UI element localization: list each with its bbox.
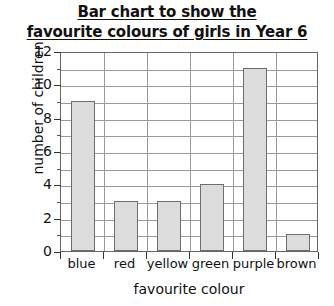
x-category-label-purple: purple (232, 256, 275, 271)
y-tick-major (54, 52, 61, 53)
bar-red (114, 201, 138, 251)
grid-line-horizontal (61, 86, 317, 87)
grid-line-vertical (104, 53, 105, 251)
y-tick-minor (57, 235, 61, 236)
grid-line-horizontal (61, 170, 317, 171)
y-tick-label: 2 (12, 213, 52, 223)
bar-yellow (157, 201, 181, 251)
y-tick-label: 10 (12, 79, 52, 89)
y-tick-label: 0 (12, 246, 52, 256)
y-tick-minor (57, 202, 61, 203)
x-category-label-red: red (103, 256, 146, 271)
y-tick-major (54, 152, 61, 153)
x-category-label-green: green (189, 256, 232, 271)
bar-purple (243, 68, 267, 251)
x-axis-label: favourite colour (60, 281, 318, 297)
y-tick-major (54, 219, 61, 220)
grid-line-horizontal (61, 236, 317, 237)
grid-line-horizontal (61, 203, 317, 204)
x-category-label-yellow: yellow (146, 256, 189, 271)
chart-title-line-2: favourite colours of girls in Year 6 (27, 23, 308, 42)
bar-chart: Bar chart to show the favourite colours … (0, 0, 334, 306)
y-tick-minor (57, 102, 61, 103)
y-tick-minor (57, 169, 61, 170)
grid-line-horizontal (61, 136, 317, 137)
y-tick-label: 6 (12, 146, 52, 156)
y-tick-minor (57, 69, 61, 70)
grid-line-horizontal (61, 186, 317, 187)
y-tick-minor (57, 135, 61, 136)
y-tick-major (54, 119, 61, 120)
chart-title-line-1: Bar chart to show the (77, 3, 256, 22)
plot-area (60, 52, 318, 252)
bar-green (200, 184, 224, 251)
grid-line-horizontal (61, 70, 317, 71)
grid-line-vertical (190, 53, 191, 251)
plot-inner (61, 53, 317, 251)
y-tick-major (54, 85, 61, 86)
grid-line-horizontal (61, 153, 317, 154)
y-tick-label: 12 (12, 46, 52, 56)
chart-title: Bar chart to show the favourite colours … (0, 2, 334, 42)
grid-line-vertical (276, 53, 277, 251)
y-tick-label: 4 (12, 179, 52, 189)
bar-brown (286, 234, 310, 251)
x-tick (318, 252, 319, 259)
y-tick-label: 8 (12, 113, 52, 123)
grid-line-vertical (233, 53, 234, 251)
grid-line-horizontal (61, 220, 317, 221)
y-tick-major (54, 185, 61, 186)
x-category-label-brown: brown (275, 256, 318, 271)
grid-line-horizontal (61, 120, 317, 121)
bar-blue (71, 101, 95, 251)
grid-line-vertical (147, 53, 148, 251)
x-category-label-blue: blue (60, 256, 103, 271)
grid-line-horizontal (61, 103, 317, 104)
